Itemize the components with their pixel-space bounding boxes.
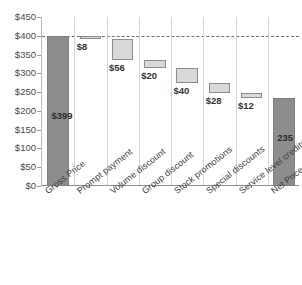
y-axis-tick-label: $0 [0,181,36,191]
bar-data-label: $8 [77,42,88,52]
category-gridline [171,17,172,185]
bar-data-label: $20 [141,71,157,81]
bar-stock-promotions [176,68,197,83]
bar-data-label: $56 [109,63,125,73]
category-gridline [107,17,108,185]
category-gridline [268,17,269,185]
bar-data-label: $399 [51,111,72,121]
y-axis-tick-mark [37,130,41,131]
category-gridline [236,17,237,185]
bar-data-label: $28 [206,96,222,106]
bar-service-level-credits [241,93,262,98]
y-axis-tick-mark [37,36,41,37]
bar-group-discount [144,60,165,68]
waterfall-chart: $399$8$56$20$40$28$12235 $450$400$350$30… [0,0,302,285]
x-axis: Gross PricePrompt paymentVolume discount… [41,188,299,283]
y-axis-tick-label: $300 [0,68,36,78]
category-gridline [203,17,204,185]
y-axis-tick-mark [37,186,41,187]
bar-prompt-payment [80,36,101,39]
y-axis-tick-mark [37,148,41,149]
bar-data-label: $40 [173,86,189,96]
bar-data-label: 235 [277,133,293,143]
category-gridline [74,17,75,185]
bar-data-label: $12 [238,101,254,111]
y-axis-tick-label: $350 [0,50,36,60]
y-axis-tick-label: $200 [0,106,36,116]
bar-special-discounts [209,83,230,94]
y-axis-tick-mark [37,92,41,93]
y-axis-tick-label: $50 [0,162,36,172]
y-axis-tick-mark [37,17,41,18]
y-axis-tick-mark [37,55,41,56]
y-axis-tick-label: $100 [0,143,36,153]
y-axis-tick-label: $250 [0,87,36,97]
category-gridline [139,17,140,185]
y-axis-tick-label: $150 [0,125,36,135]
y-axis-tick-mark [37,73,41,74]
y-axis-tick-label: $450 [0,12,36,22]
bar-volume-discount [112,39,133,60]
y-axis-tick-label: $400 [0,31,36,41]
y-axis-tick-mark [37,167,41,168]
y-axis-tick-mark [37,111,41,112]
